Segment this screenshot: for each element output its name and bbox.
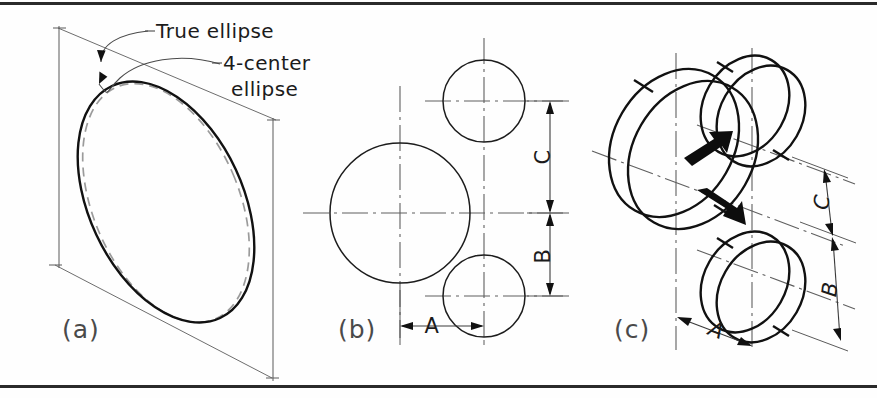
panel-c-dimension-extensions	[792, 157, 856, 351]
panel-b-dimension-c-label: C	[531, 149, 555, 164]
panel-b-dimension-b-label: B	[531, 249, 555, 264]
top-border-rule	[0, 2, 877, 5]
panel-a: True ellipse 4-center ellipse (a)	[42, 19, 311, 381]
four-center-ellipse-label-line2: ellipse	[231, 77, 298, 101]
true-ellipse-label: True ellipse	[155, 19, 274, 43]
callout-true-ellipse: True ellipse	[145, 19, 274, 43]
panel-a-label: (a)	[62, 315, 100, 344]
small-cylinder-lower	[683, 216, 823, 359]
panel-c-dimension-b-label: B	[817, 280, 843, 298]
panel-b-label: (b)	[338, 315, 376, 344]
panel-c: A C B (c)	[583, 40, 856, 359]
panel-b-dimension-a: A	[400, 290, 484, 345]
arrow-up-right	[684, 131, 733, 166]
panel-b-dimension-extensions	[527, 101, 569, 296]
panel-c-label: (c)	[614, 315, 650, 344]
figure-container: True ellipse 4-center ellipse (a)	[0, 0, 877, 398]
panel-c-dimension-c-label: C	[809, 193, 835, 211]
panel-c-dimension-a-label: A	[703, 316, 727, 344]
panel-c-dimension-b: B	[817, 237, 843, 341]
large-cylinder	[583, 45, 784, 252]
panel-b: A C B (b)	[303, 38, 569, 345]
panel-b-dimension-c: C	[531, 101, 555, 213]
callout-four-center-ellipse: 4-center ellipse	[212, 51, 311, 101]
true-ellipse-leader	[97, 31, 148, 62]
panel-b-dimension-b: B	[531, 213, 555, 296]
four-center-ellipse-label-line1: 4-center	[223, 51, 311, 75]
panel-b-dimension-a-label: A	[425, 314, 440, 338]
bottom-border-rule	[0, 385, 877, 388]
panel-c-dimension-c: C	[809, 169, 835, 236]
technical-drawing: True ellipse 4-center ellipse (a)	[0, 0, 877, 398]
